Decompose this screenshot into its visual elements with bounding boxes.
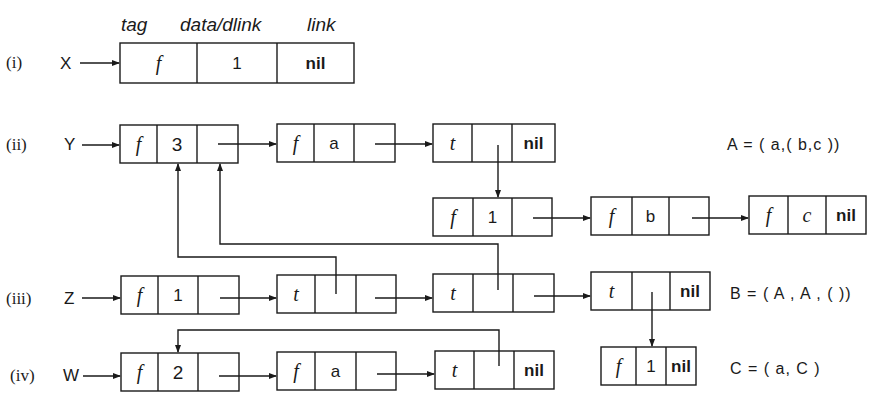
node-z1-data: 1	[158, 276, 198, 314]
node-y2-tag: f	[277, 124, 314, 162]
node-y5-data: b	[632, 197, 669, 235]
node-x1-data: 1	[197, 43, 277, 83]
node-c1-tag: f	[601, 347, 636, 385]
node-y1-tag: f	[120, 125, 157, 163]
node-w3-tag: t	[435, 351, 474, 389]
node-x1-tag: f	[120, 43, 197, 83]
node-y5-tag: f	[591, 197, 632, 235]
node-c1-link: nil	[666, 347, 696, 385]
node-y4-data: 1	[473, 198, 512, 236]
node-w3-link: nil	[514, 351, 554, 389]
node-y6-tag: f	[749, 196, 788, 234]
node-y1-data: 3	[157, 125, 197, 163]
node-y6-data: c	[788, 196, 826, 234]
node-w1-data: 2	[158, 353, 198, 391]
node-z1-tag: f	[121, 276, 158, 314]
node-y3-link: nil	[512, 124, 555, 162]
node-x1-link: nil	[277, 43, 354, 83]
node-c1-data: 1	[636, 347, 666, 385]
row-label-iii: (iii)	[6, 290, 32, 307]
node-w2-tag: f	[277, 352, 315, 390]
node-w2-data: a	[315, 352, 356, 390]
node-z3-tag: t	[433, 274, 473, 312]
pointer-y: Y	[64, 136, 75, 153]
pointer-w: W	[63, 367, 79, 384]
row-label-ii: (ii)	[6, 136, 27, 153]
node-z4-link: nil	[670, 272, 710, 310]
pointer-x: X	[60, 55, 71, 72]
node-y3-tag: t	[433, 124, 472, 162]
node-z2-tag: t	[277, 275, 315, 313]
node-y6-link: nil	[826, 196, 866, 234]
row-label-i: (i)	[6, 54, 22, 71]
equation-c: C = ( a, C )	[730, 360, 821, 378]
node-y4-tag: f	[433, 198, 473, 236]
header-link: link	[307, 15, 336, 34]
node-y2-data: a	[314, 124, 354, 162]
header-tag: tag	[121, 15, 147, 34]
node-z4-tag: t	[591, 272, 632, 310]
header-data-dlink: data/dlink	[180, 15, 261, 34]
equation-b: B = ( A , A , ( ))	[730, 285, 852, 303]
equation-a: A = ( a,( b,c ))	[727, 136, 840, 154]
node-w1-tag: f	[121, 353, 158, 391]
pointer-z: Z	[64, 290, 74, 307]
row-label-iv: (iv)	[10, 367, 35, 384]
